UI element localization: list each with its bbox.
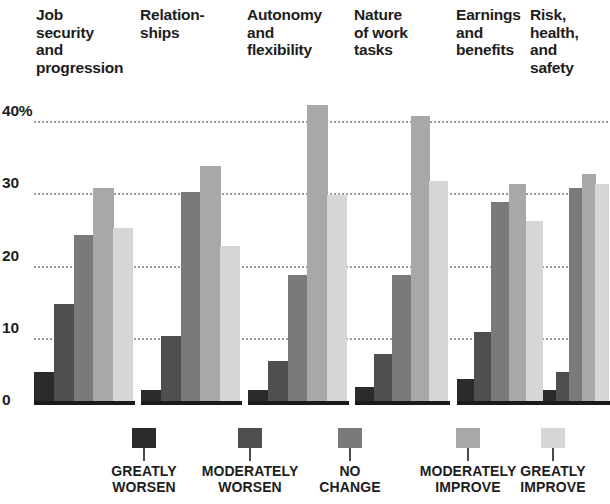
bar-1-1[interactable] [161,336,181,401]
group-baseline-2 [248,401,349,405]
bar-5-4[interactable] [595,184,609,401]
bar-5-0[interactable] [543,390,557,401]
bar-0-0[interactable] [34,372,54,401]
y-tick-label-40: 40% [2,102,32,120]
legend-swatch-1 [238,428,262,448]
bar-1-0[interactable] [141,390,161,401]
bar-group-3 [355,111,448,411]
bar-4-2[interactable] [491,202,509,401]
bar-0-4[interactable] [113,228,133,401]
bar-2-4[interactable] [327,195,347,401]
bar-5-3[interactable] [582,174,596,401]
legend-item-2[interactable]: NO CHANGE [310,424,390,495]
category-header-4: Earnings and benefits [456,6,521,59]
bar-4-0[interactable] [457,379,475,401]
category-headers: Job security and progression Relation- s… [0,0,608,96]
bar-5-1[interactable] [556,372,570,401]
bar-0-2[interactable] [74,235,94,401]
legend-label-0: GREATLY WORSEN [96,463,192,495]
group-baseline-0 [34,401,135,405]
y-tick-label-20: 20 [2,247,19,265]
bar-group-2 [248,111,347,411]
legend-stem-0 [143,448,145,461]
chart-legend: GREATLY WORSENMODERATELY WORSENNO CHANGE… [0,424,608,504]
bar-5-2[interactable] [569,188,583,401]
legend-item-1[interactable]: MODERATELY WORSEN [190,424,310,495]
group-baseline-4 [457,401,545,405]
bar-2-1[interactable] [268,361,288,401]
legend-stem-3 [467,448,469,461]
legend-label-1: MODERATELY WORSEN [190,463,310,495]
bar-2-0[interactable] [248,390,268,401]
bar-4-3[interactable] [509,184,527,401]
legend-label-2: NO CHANGE [310,463,390,495]
bar-2-2[interactable] [288,275,308,401]
bar-group-4 [457,111,543,411]
bar-3-3[interactable] [411,116,430,401]
legend-swatch-4 [541,428,565,448]
category-header-3: Nature of work tasks [354,6,408,59]
category-header-2: Autonomy and flexibility [247,6,322,59]
bar-3-0[interactable] [355,387,374,401]
y-tick-label-0: 0 [2,391,10,409]
legend-item-0[interactable]: GREATLY WORSEN [96,424,192,495]
legend-stem-2 [349,448,351,461]
y-tick-label-30: 30 [2,174,19,192]
bar-3-4[interactable] [429,181,448,401]
bar-1-4[interactable] [220,246,240,401]
legend-swatch-0 [132,428,156,448]
legend-swatch-2 [338,428,362,448]
bar-group-0 [34,111,133,411]
bar-group-5 [543,111,608,411]
category-header-1: Relation- ships [140,6,205,41]
bar-4-4[interactable] [526,221,544,402]
bar-1-3[interactable] [200,166,220,401]
bar-2-3[interactable] [307,105,327,401]
legend-label-4: GREATLY IMPROVE [505,463,601,495]
y-tick-label-10: 10 [2,319,19,337]
bar-0-3[interactable] [93,188,113,401]
legend-item-4[interactable]: GREATLY IMPROVE [505,424,601,495]
bar-1-2[interactable] [181,192,201,401]
legend-stem-4 [552,448,554,461]
legend-stem-1 [249,448,251,461]
bar-3-1[interactable] [374,354,393,401]
category-header-5: Risk, health, and safety [530,6,579,76]
group-baseline-1 [141,401,242,405]
group-baseline-3 [355,401,450,405]
bar-group-1 [141,111,240,411]
category-header-0: Job security and progression [36,6,123,76]
bar-0-1[interactable] [54,304,74,401]
bar-3-2[interactable] [392,275,411,401]
group-baseline-5 [543,401,610,405]
chart-plot-area: 40%3020100 [0,96,608,421]
bar-4-1[interactable] [474,332,492,401]
legend-swatch-3 [456,428,480,448]
